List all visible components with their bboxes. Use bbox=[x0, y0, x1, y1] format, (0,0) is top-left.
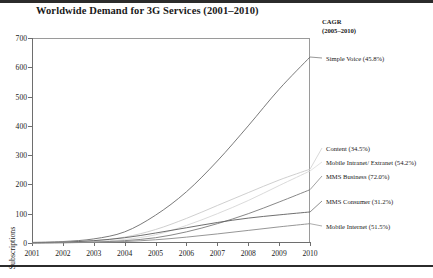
leader-line bbox=[310, 224, 322, 226]
series-label-mms-consumer: MMS Consumer (31.2%) bbox=[326, 198, 393, 205]
series-label-simple-voice: Simple Voice (45.8%) bbox=[326, 55, 384, 62]
series-label-mms-business: MMS Business (72.0%) bbox=[326, 173, 390, 180]
series-label-mobile-internet: Mobile Internet (51.5%) bbox=[326, 223, 390, 230]
leader-line bbox=[310, 57, 322, 58]
series-label-content: Content (34.5%) bbox=[326, 145, 370, 152]
leader-lines bbox=[0, 0, 433, 278]
leader-line bbox=[310, 148, 322, 169]
series-label-mobile-intranet: Mobile Intranet/ Extranet (54.2%) bbox=[326, 159, 416, 166]
chart-page: Worldwide Demand for 3G Services (2001–2… bbox=[0, 0, 433, 278]
leader-line bbox=[310, 201, 322, 212]
leader-line bbox=[310, 176, 322, 190]
